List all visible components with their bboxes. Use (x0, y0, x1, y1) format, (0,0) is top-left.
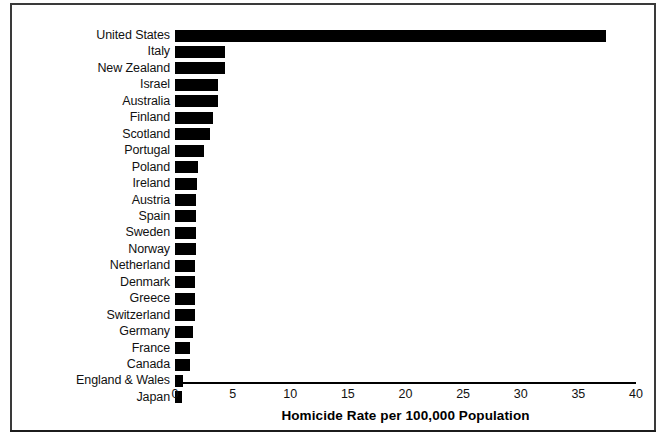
x-axis-line (175, 382, 636, 384)
bar-category-label: Norway (0, 242, 170, 256)
bar-category-label: Japan (0, 390, 170, 404)
bar-row: Israel (0, 77, 661, 94)
homicide-rate-bar-chart: United StatesItalyNew ZealandIsraelAustr… (0, 0, 661, 442)
bar (175, 46, 225, 58)
x-tick-label: 0 (160, 387, 190, 401)
bar-row: Finland (0, 110, 661, 127)
bar (175, 128, 210, 140)
bar (175, 309, 195, 321)
bar-row: Greece (0, 291, 661, 308)
bar-category-label: Netherland (0, 258, 170, 272)
bar-category-label: Denmark (0, 275, 170, 289)
bar (175, 79, 218, 91)
bar-category-label: Finland (0, 110, 170, 124)
x-axis-title: Homicide Rate per 100,000 Population (175, 408, 636, 423)
bar-category-label: Greece (0, 291, 170, 305)
bar-row: Scotland (0, 127, 661, 144)
bar-category-label: Spain (0, 209, 170, 223)
bar-row: Canada (0, 357, 661, 374)
bar-category-label: Portugal (0, 143, 170, 157)
bar (175, 95, 218, 107)
bar (175, 260, 195, 272)
bar-row: Netherland (0, 258, 661, 275)
bar (175, 293, 195, 305)
bar-row: Switzerland (0, 308, 661, 325)
bar-category-label: Canada (0, 357, 170, 371)
bar-category-label: Poland (0, 160, 170, 174)
bar-row: Denmark (0, 275, 661, 292)
x-tick-label: 15 (333, 387, 363, 401)
x-tick-label: 10 (275, 387, 305, 401)
bar-row: New Zealand (0, 61, 661, 78)
bar-row: Portugal (0, 143, 661, 160)
x-tick-label: 40 (621, 387, 651, 401)
bar-category-label: New Zealand (0, 61, 170, 75)
bar-row: Australia (0, 94, 661, 111)
x-tick-label: 25 (448, 387, 478, 401)
bar (175, 161, 198, 173)
bar (175, 210, 196, 222)
x-tick-label: 5 (218, 387, 248, 401)
bar-category-label: Israel (0, 77, 170, 91)
bar (175, 359, 190, 371)
bar-row: France (0, 341, 661, 358)
bar-row: Sweden (0, 225, 661, 242)
bar-row: Italy (0, 44, 661, 61)
bar-row: Ireland (0, 176, 661, 193)
bar-row: Spain (0, 209, 661, 226)
bar-category-label: United States (0, 28, 170, 42)
bar-category-label: Austria (0, 193, 170, 207)
bar (175, 326, 193, 338)
bar (175, 342, 190, 354)
bar-category-label: Ireland (0, 176, 170, 190)
bar-row: Germany (0, 324, 661, 341)
x-tick-label: 35 (563, 387, 593, 401)
bar (175, 30, 606, 42)
x-tick-label: 20 (391, 387, 421, 401)
x-tick-label: 30 (506, 387, 536, 401)
bar (175, 227, 196, 239)
bar (175, 243, 196, 255)
bar-category-label: France (0, 341, 170, 355)
bar (175, 112, 213, 124)
bar-row: Japan (0, 390, 661, 407)
bar-category-label: Switzerland (0, 308, 170, 322)
bar-category-label: Australia (0, 94, 170, 108)
bar-category-label: Sweden (0, 225, 170, 239)
bar-category-label: Germany (0, 324, 170, 338)
bar-category-label: Italy (0, 44, 170, 58)
bar-category-label: Scotland (0, 127, 170, 141)
bar (175, 62, 225, 74)
bar-row: Norway (0, 242, 661, 259)
bar (175, 276, 195, 288)
bar-row: United States (0, 28, 661, 45)
bar-row: Austria (0, 193, 661, 210)
bar (175, 375, 183, 387)
bar-category-label: England & Wales (0, 373, 170, 387)
bar (175, 145, 204, 157)
bar-row: Poland (0, 160, 661, 177)
bar (175, 178, 197, 190)
bar (175, 194, 196, 206)
